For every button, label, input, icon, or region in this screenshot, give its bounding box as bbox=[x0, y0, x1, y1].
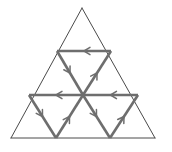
figure-root bbox=[0, 0, 172, 152]
inner-vectors-group bbox=[29, 47, 138, 138]
triangle-diagram-svg bbox=[0, 0, 172, 152]
outer-triangle-group bbox=[11, 8, 155, 138]
